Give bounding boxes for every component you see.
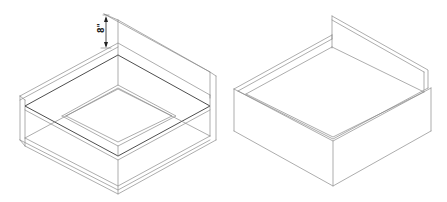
left-lower-rim bbox=[20, 88, 216, 194]
right-solid-tray bbox=[234, 16, 431, 186]
left-inner-tray bbox=[62, 55, 176, 156]
right-front-rim bbox=[234, 88, 431, 141]
left-back-wall bbox=[104, 14, 216, 140]
height-dimension: 8" bbox=[97, 15, 111, 48]
left-upper-rim bbox=[20, 43, 210, 160]
dimension-label: 8" bbox=[97, 23, 106, 33]
left-wireframe-tray: 8" bbox=[20, 14, 216, 194]
diagram-canvas: 8" bbox=[0, 0, 447, 202]
right-inner-back-edge bbox=[332, 47, 424, 92]
diagram-svg: 8" bbox=[0, 0, 447, 202]
right-left-rim bbox=[234, 35, 332, 94]
right-back-splash bbox=[332, 16, 428, 90]
